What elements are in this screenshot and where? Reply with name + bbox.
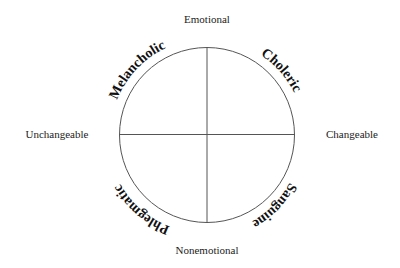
- axis-label-bottom: Nonemotional: [176, 244, 239, 256]
- temperament-diagram: Emotional Nonemotional Unchangeable Chan…: [0, 0, 400, 268]
- axis-label-top: Emotional: [184, 13, 230, 25]
- axis-label-right: Changeable: [326, 128, 378, 140]
- quadrant-label-melancholic: Melancholic: [106, 37, 167, 101]
- axis-label-left: Unchangeable: [26, 128, 89, 140]
